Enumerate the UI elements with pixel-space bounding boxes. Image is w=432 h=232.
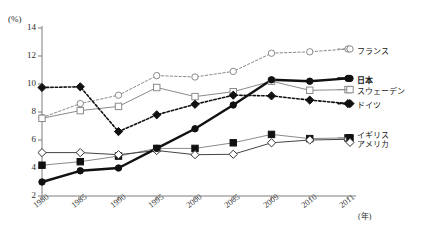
marker-open-square [154,84,160,90]
marker-filled-circle [347,75,353,81]
marker-filled-square [77,159,83,165]
marker-filled-diamond [38,83,46,91]
marker-open-circle [192,74,198,80]
legend-swatch-ドイツ [338,100,354,108]
marker-filled-diamond [306,96,314,104]
marker-filled-diamond [191,100,199,108]
markers-日本 [39,75,351,185]
marker-filled-circle [268,77,274,83]
marker-open-square [307,87,313,93]
marker-open-circle [347,46,353,52]
marker-open-square [39,115,45,121]
marker-open-circle [307,49,313,55]
plot-area [0,0,432,232]
marker-filled-circle [77,168,83,174]
marker-open-square [192,93,198,99]
marker-open-square [347,86,353,92]
marker-open-circle [115,92,121,98]
marker-open-circle [230,68,236,74]
legend-item-germany[interactable]: ドイツ [357,99,381,110]
marker-filled-circle [115,165,121,171]
marker-filled-diamond [153,111,161,119]
marker-filled-circle [307,78,313,84]
marker-filled-square [268,131,274,137]
line-chart: (%) 1412108642 1980198519901995200020052… [0,0,432,232]
markers-イギリス [39,131,351,168]
marker-open-diamond [229,150,237,158]
legend-item-sweden[interactable]: スウェーデン [357,85,405,96]
marker-open-circle [154,72,160,78]
legend-item-japan[interactable]: 日本 [357,74,373,85]
marker-open-square [77,107,83,113]
marker-filled-circle [154,145,160,151]
marker-filled-square [230,140,236,146]
marker-open-circle [268,50,274,56]
marker-filled-circle [230,102,236,108]
marker-open-square [115,103,121,109]
marker-open-diamond [38,149,46,157]
marker-open-diamond [267,139,275,147]
legend-item-france[interactable]: フランス [357,45,389,56]
legend-item-usa[interactable]: アメリカ [357,138,389,149]
marker-filled-circle [39,179,45,185]
marker-filled-diamond [267,92,275,100]
marker-open-circle [77,100,83,106]
marker-filled-square [39,162,45,168]
marker-open-diamond [76,149,84,157]
marker-filled-circle [192,126,198,132]
